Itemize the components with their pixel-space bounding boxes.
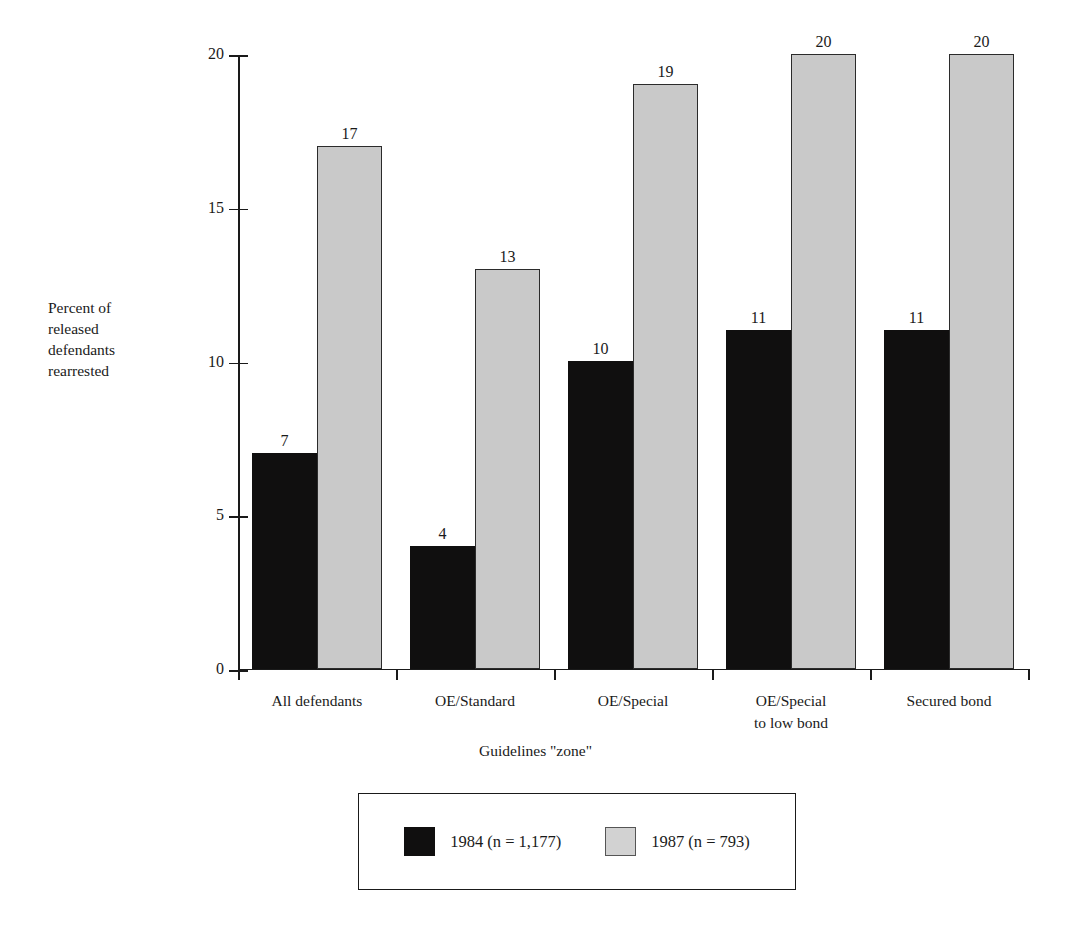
bar: 20: [949, 54, 1014, 669]
bar: 13: [475, 269, 540, 669]
x-axis-tick-mark: [870, 669, 872, 680]
gray-square-swatch: [605, 827, 636, 856]
plot-area: 05101520 717413101911201120: [238, 55, 1028, 670]
bar: 19: [633, 84, 698, 668]
y-axis-tick-mark: [229, 209, 248, 211]
y-axis-tick-mark: [229, 55, 248, 57]
bar-value-label: 4: [439, 524, 447, 543]
x-axis-title: Guidelines "zone": [0, 742, 1071, 760]
bar: 17: [317, 146, 382, 669]
y-axis-tick-mark: [229, 516, 248, 518]
bar-value-label: 20: [974, 32, 990, 51]
bar: 10: [568, 361, 633, 669]
y-axis-title: Percent of released defendants rearreste…: [48, 297, 198, 381]
y-axis-tick-label: 20: [208, 44, 224, 64]
legend-entries: 1984 (n = 1,177)1987 (n = 793): [359, 794, 795, 889]
bar-value-label: 20: [816, 32, 832, 51]
x-axis-tick-mark: [554, 669, 556, 680]
bar-value-label: 7: [281, 431, 289, 450]
y-axis-tick-label: 10: [208, 352, 224, 372]
x-axis-line: [238, 669, 1028, 671]
legend: 1984 (n = 1,177)1987 (n = 793): [358, 793, 796, 890]
black-square-swatch: [404, 827, 435, 856]
bar: 4: [410, 546, 475, 669]
legend-label: 1984 (n = 1,177): [450, 832, 561, 852]
y-axis-tick-label: 5: [216, 505, 224, 525]
bar-value-label: 10: [593, 339, 609, 358]
bar: 11: [884, 330, 949, 668]
x-axis-tick-mark: [712, 669, 714, 680]
x-axis-tick-mark: [1028, 669, 1030, 680]
bar-value-label: 11: [751, 308, 766, 327]
bar-value-label: 19: [658, 62, 674, 81]
bar: 11: [726, 330, 791, 668]
legend-item[interactable]: 1984 (n = 1,177): [404, 827, 561, 856]
x-axis-category-label: Secured bond: [839, 690, 1059, 712]
bar: 7: [252, 453, 317, 668]
bar-value-label: 11: [909, 308, 924, 327]
legend-item[interactable]: 1987 (n = 793): [605, 827, 750, 856]
y-axis-tick-label: 15: [208, 198, 224, 218]
legend-label: 1987 (n = 793): [651, 832, 750, 852]
bar: 20: [791, 54, 856, 669]
bar-value-label: 17: [342, 124, 358, 143]
bar-value-label: 13: [500, 247, 516, 266]
x-axis-tick-mark: [396, 669, 398, 680]
y-axis-tick-mark: [229, 363, 248, 365]
x-axis-tick-mark: [238, 669, 240, 680]
y-axis-tick-label: 0: [216, 659, 224, 679]
